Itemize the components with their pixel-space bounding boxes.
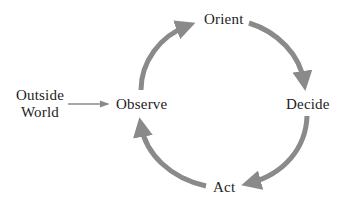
outside-world-line1: Outside — [14, 87, 66, 104]
arrow-act-to-observe — [141, 126, 206, 186]
node-outside-world: Outside World — [14, 87, 66, 121]
node-observe: Observe — [116, 96, 167, 113]
node-act: Act — [213, 179, 235, 196]
ooda-loop-diagram: Outside World Observe Orient Decide Act — [0, 0, 343, 207]
arrow-decide-to-act — [250, 116, 307, 183]
node-orient: Orient — [204, 11, 244, 28]
outside-world-line2: World — [14, 104, 66, 121]
arrow-orient-to-decide — [249, 23, 304, 82]
arrow-observe-to-orient — [141, 26, 187, 90]
node-decide: Decide — [286, 96, 330, 113]
